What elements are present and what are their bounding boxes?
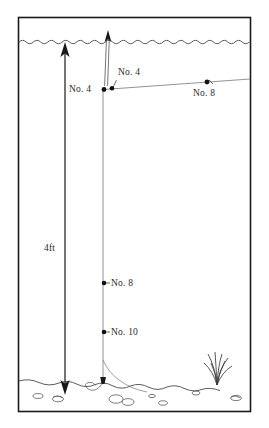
hook-dot-mid — [102, 281, 107, 286]
hook-label-mid: No. 8 — [111, 278, 133, 288]
hook-dot-upper-left — [102, 87, 107, 92]
hook-label-upper-right: No. 4 — [118, 67, 140, 77]
hook-label-leader-right: No. 8 — [193, 88, 215, 98]
fishing-rig-diagram — [0, 0, 269, 428]
hook-dot-upper-right — [110, 86, 115, 91]
depth-label: 4ft — [44, 243, 55, 253]
hook-label-lower: No. 10 — [111, 327, 138, 337]
hook-label-upper-left: No. 4 — [69, 84, 91, 94]
hook-dot-leader-right — [205, 80, 210, 85]
hook-dot-lower — [102, 330, 107, 335]
